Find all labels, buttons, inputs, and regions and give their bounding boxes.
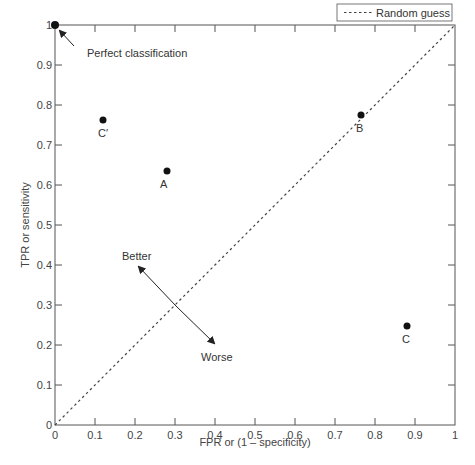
x-tick-label: 0.2 (127, 429, 142, 441)
x-tick-label: 0.7 (327, 429, 342, 441)
y-tick-label: 0.8 (37, 99, 52, 111)
y-tick-label: 0.5 (37, 219, 52, 231)
legend-label: Random guess (376, 7, 450, 19)
point-c-prime-label: C′ (98, 127, 108, 139)
x-tick-label: 1 (452, 429, 458, 441)
legend: Random guess (337, 4, 452, 21)
point-c-prime (100, 117, 107, 124)
x-tick-label: 0.3 (167, 429, 182, 441)
x-axis-label: FPR or (1 – specificity) (199, 436, 310, 448)
better-label: Better (122, 250, 152, 262)
y-tick-label: 0.9 (37, 59, 52, 71)
point-a-label: A (160, 178, 168, 190)
perfect-classification-label: Perfect classification (87, 47, 187, 59)
x-tick-label: 0.8 (367, 429, 382, 441)
data-points: C′ A B C (51, 21, 411, 345)
better-arrow-icon (139, 267, 176, 306)
x-tick-label: 0.1 (87, 429, 102, 441)
worse-label: Worse (201, 351, 233, 363)
point-b (358, 112, 365, 119)
random-guess-line (55, 25, 455, 425)
y-tick-label: 0.3 (37, 299, 52, 311)
x-axis-ticks: 00.10.20.30.40.50.60.70.80.91 (52, 25, 458, 441)
y-tick-label: 0 (46, 419, 52, 431)
roc-chart: 00.10.20.30.40.50.60.70.80.91 00.10.20.3… (0, 0, 475, 465)
point-c-label: C (402, 333, 410, 345)
worse-arrow-icon (176, 306, 214, 343)
point-b-label: B (356, 122, 363, 134)
y-axis-label: TPR or sensitivity (19, 182, 31, 268)
perfect-arrow-icon (60, 31, 74, 46)
point-a (164, 168, 171, 175)
y-tick-label: 0.2 (37, 339, 52, 351)
point-perfect (51, 21, 59, 29)
y-tick-label: 0.6 (37, 179, 52, 191)
y-axis-ticks: 00.10.20.30.40.50.60.70.80.91 (37, 19, 455, 431)
y-tick-label: 0.4 (37, 259, 52, 271)
x-tick-label: 0 (52, 429, 58, 441)
y-tick-label: 0.1 (37, 379, 52, 391)
x-tick-label: 0.9 (407, 429, 422, 441)
point-c (404, 323, 411, 330)
y-tick-label: 0.7 (37, 139, 52, 151)
